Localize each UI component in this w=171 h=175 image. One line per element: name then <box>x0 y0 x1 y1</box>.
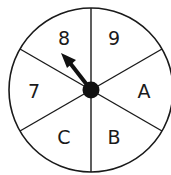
section-label: A <box>138 80 151 102</box>
spinner-hub <box>83 82 100 99</box>
section-label: 8 <box>58 27 70 49</box>
section-label: C <box>57 126 70 148</box>
section-label: 9 <box>108 27 120 49</box>
section-label: B <box>107 126 120 148</box>
section-label: 7 <box>28 80 40 102</box>
spinner-diagram: 9 A B C 7 8 <box>0 0 171 175</box>
